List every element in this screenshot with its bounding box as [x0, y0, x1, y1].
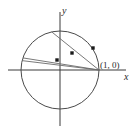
y-axis-label: y — [61, 5, 67, 16]
point-one-zero-label: (1, 0) — [100, 60, 120, 70]
midpoint-dot-1 — [55, 58, 58, 61]
figure-canvas: y x (1, 0) — [0, 0, 138, 133]
midpoint-dot-2 — [70, 51, 73, 54]
chord-line-3 — [52, 32, 99, 70]
unit-circle-figure: y x (1, 0) — [0, 0, 138, 133]
x-axis-label: x — [123, 71, 129, 82]
chord-line-2 — [23, 58, 99, 70]
midpoint-dot-3 — [91, 46, 94, 49]
